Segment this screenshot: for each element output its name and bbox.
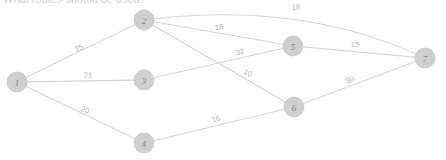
graph-node-2[interactable]: 2	[134, 10, 154, 30]
graph-edge	[153, 25, 286, 102]
graph-figure: 25212018181032161530 1234567 What routes…	[0, 0, 446, 160]
edge-weight-label: 15	[351, 40, 359, 49]
edge-weight-label: 10	[242, 67, 254, 79]
caption-strip: What routes should be used?	[0, 0, 446, 9]
node-label: 7	[423, 54, 428, 64]
graph-node-1[interactable]: 1	[7, 72, 27, 92]
node-label: 6	[292, 103, 297, 113]
edge-weight-label: 21	[84, 70, 93, 79]
graph-node-5[interactable]: 5	[283, 36, 303, 56]
edge-weight-label: 20	[79, 104, 90, 116]
node-label: 2	[142, 16, 147, 26]
edge-weight-label: 16	[211, 114, 221, 125]
node-label: 4	[142, 139, 147, 149]
edge-weight-label: 25	[73, 42, 85, 54]
graph-node-4[interactable]: 4	[134, 133, 154, 153]
node-label: 3	[141, 76, 147, 86]
node-label: 5	[291, 42, 296, 52]
caption-text: What routes should be used?	[3, 0, 146, 5]
graph-node-6[interactable]: 6	[284, 97, 304, 117]
graph-canvas: 25212018181032161530 1234567	[0, 0, 446, 160]
graph-node-7[interactable]: 7	[415, 48, 435, 68]
edge-weight-label: 32	[235, 47, 245, 58]
edge-weight-label: 30	[344, 74, 355, 85]
graph-edge	[27, 80, 134, 82]
graph-edge	[303, 62, 415, 104]
graph-edge	[154, 48, 284, 78]
graph-node-3[interactable]: 3	[134, 70, 154, 90]
node-label: 1	[15, 78, 20, 88]
edge-weight-label: 18	[214, 22, 224, 32]
